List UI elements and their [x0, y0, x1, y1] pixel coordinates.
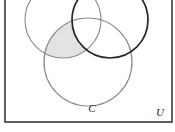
- universe-label: U: [156, 106, 165, 118]
- venn-diagram-canvas: C U: [0, 0, 175, 132]
- set-label-c: C: [88, 102, 96, 114]
- venn-diagram-figure: C U: [0, 0, 175, 132]
